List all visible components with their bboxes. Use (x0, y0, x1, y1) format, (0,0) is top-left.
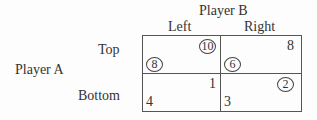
column-player-label: Player B (199, 3, 248, 19)
row-label-top: Top (98, 42, 120, 58)
payoff-b-circled: 10 (199, 39, 216, 54)
cell-top-right: 8 6 (221, 36, 299, 74)
row-player-label: Player A (15, 62, 64, 78)
cell-bottom-right: 2 3 (221, 74, 299, 112)
payoff-matrix: 10 8 8 6 1 4 2 3 (142, 35, 302, 112)
cell-top-left: 10 8 (143, 36, 221, 74)
payoff-a-circled: 8 (146, 57, 163, 72)
row-label-bottom: Bottom (78, 88, 120, 104)
cell-bottom-left: 1 4 (143, 74, 221, 112)
payoff-b: 8 (287, 38, 294, 54)
payoff-a-circled: 6 (224, 57, 241, 72)
column-label-left: Left (168, 19, 191, 35)
column-label-right: Right (244, 19, 275, 35)
payoff-a: 4 (146, 94, 153, 110)
payoff-a: 3 (224, 94, 231, 110)
payoff-b-circled: 2 (277, 77, 294, 92)
payoff-b: 1 (209, 76, 216, 92)
